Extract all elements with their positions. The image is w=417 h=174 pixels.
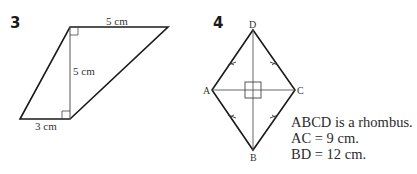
right-angle-bottom-icon — [62, 111, 70, 119]
figure-4-number: 4 — [213, 14, 223, 32]
figure-3-number: 3 — [10, 14, 20, 32]
vertex-label-c: C — [297, 85, 304, 96]
height-length-label: 5 cm — [73, 65, 95, 77]
note-line-3: BD = 12 cm. — [291, 146, 413, 162]
top-length-label: 5 cm — [106, 15, 128, 27]
note-line-1: ABCD is a rhombus. — [291, 114, 413, 130]
note-line-2: AC = 9 cm. — [291, 130, 413, 146]
vertex-label-a: A — [203, 85, 211, 96]
vertex-label-b: B — [250, 152, 257, 163]
rhombus-notes: ABCD is a rhombus. AC = 9 cm. BD = 12 cm… — [291, 114, 413, 162]
figure-4: 4 D A C B — [203, 14, 304, 163]
right-angle-top-icon — [70, 27, 78, 35]
figure-3: 3 5 cm 5 cm 3 cm — [10, 14, 168, 132]
vertex-label-d: D — [249, 19, 256, 30]
bottom-length-label: 3 cm — [35, 120, 57, 132]
